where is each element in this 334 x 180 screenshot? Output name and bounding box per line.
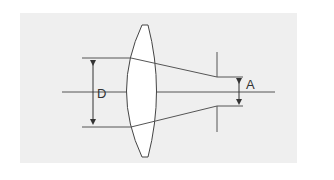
spot-label: A xyxy=(246,77,255,92)
aperture-label: D xyxy=(97,86,106,101)
lens-diagram: D A xyxy=(0,0,334,180)
diagram-panel xyxy=(20,13,297,163)
